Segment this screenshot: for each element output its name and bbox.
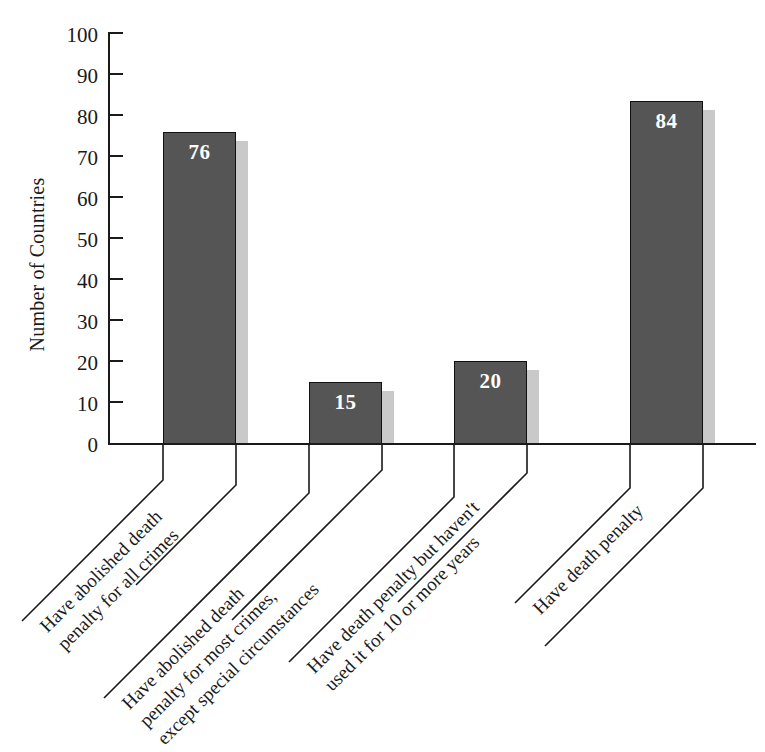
y-tick-mark-70 (110, 155, 123, 157)
bar-shadow-1 (236, 141, 248, 444)
y-axis-title: Number of Countries (26, 140, 49, 390)
y-tick-label-100: 100 (42, 25, 98, 46)
y-tick-mark-20 (110, 360, 123, 362)
y-tick-label-40: 40 (42, 271, 98, 292)
y-tick-mark-60 (110, 196, 123, 198)
y-tick-label-30: 30 (42, 312, 98, 333)
bar-shadow-3 (527, 370, 539, 444)
bar-shadow-2 (382, 391, 394, 444)
y-tick-label-80: 80 (42, 107, 98, 128)
category-label-3: Have death penalty but haven't used it f… (301, 495, 502, 696)
y-tick-mark-10 (110, 401, 123, 403)
y-tick-mark-80 (110, 114, 123, 116)
y-tick-label-70: 70 (42, 148, 98, 169)
bar-value-2: 15 (309, 392, 382, 413)
y-tick-mark-100 (110, 32, 123, 34)
y-tick-label-10: 10 (42, 394, 98, 415)
y-tick-mark-30 (110, 319, 123, 321)
bar-value-4: 84 (630, 111, 703, 132)
category-label-4-line-1: Have death penalty (527, 498, 648, 619)
y-tick-label-0: 0 (42, 435, 98, 456)
bar-value-1: 76 (163, 142, 236, 163)
category-label-2-line-2: penalty for most crimes, (134, 560, 307, 733)
bar-shadow-4 (703, 110, 715, 444)
category-label-1: Have abolished death penalty for all cri… (34, 504, 185, 655)
bar-chart: Number of Countries 100 90 80 70 60 50 4… (0, 0, 765, 752)
bar-1[interactable] (163, 132, 236, 444)
bar-value-3: 20 (454, 371, 527, 392)
y-axis-line (108, 32, 110, 444)
category-label-3-line-2: used it for 10 or more years (319, 513, 503, 697)
x-axis-line (108, 443, 756, 445)
y-tick-mark-40 (110, 278, 123, 280)
y-tick-label-60: 60 (42, 189, 98, 210)
category-label-4: Have death penalty (527, 498, 648, 619)
bar-4[interactable] (630, 101, 703, 444)
y-tick-label-90: 90 (42, 66, 98, 87)
y-tick-mark-90 (110, 73, 123, 75)
y-tick-label-20: 20 (42, 353, 98, 374)
y-tick-label-50: 50 (42, 230, 98, 251)
category-label-3-line-1: Have death penalty but haven't (301, 495, 485, 679)
y-tick-mark-50 (110, 237, 123, 239)
